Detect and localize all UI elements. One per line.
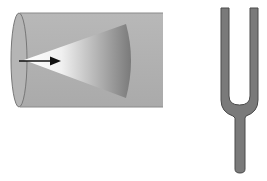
diagram-canvas [0,0,267,181]
tuning-fork-icon [221,8,258,173]
